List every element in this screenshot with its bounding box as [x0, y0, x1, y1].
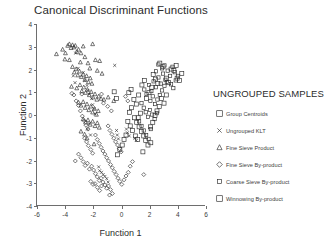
y-tick-label: -2 — [26, 157, 32, 164]
legend-item[interactable]: Group Centroids — [213, 105, 323, 122]
x-tick-mark — [37, 206, 38, 209]
legend-item-label: Group Centroids — [226, 111, 268, 117]
y-tick-mark — [34, 92, 37, 93]
scatter-series — [137, 63, 179, 141]
legend: UNGROUPED SAMPLES Group CentroidsUngroup… — [213, 88, 323, 207]
y-tick-label: 1 — [28, 89, 32, 96]
y-tick-label: -3 — [26, 180, 32, 187]
y-tick-label: 2 — [28, 66, 32, 73]
small-square-marker-icon — [213, 177, 226, 186]
legend-item[interactable]: Winnowing By-product — [213, 190, 323, 207]
square-marker-icon — [213, 194, 226, 203]
x-tick-mark — [178, 206, 179, 209]
page-title: Canonical Discriminant Functions — [34, 4, 208, 16]
x-tick-label: -2 — [90, 211, 96, 218]
diamond-marker-icon — [213, 160, 226, 169]
chart-root: Canonical Discriminant Functions -4-3-2-… — [0, 0, 326, 251]
y-axis-title: Function 2 — [18, 94, 28, 136]
y-tick-mark — [34, 70, 37, 71]
triangle-marker-icon — [213, 143, 226, 152]
x-tick-label: 6 — [204, 211, 208, 218]
x-tick-label: 2 — [148, 211, 152, 218]
y-tick-mark — [34, 47, 37, 48]
y-tick-mark — [34, 138, 37, 139]
scatter-markers-layer — [37, 24, 205, 205]
y-tick-mark — [34, 24, 37, 25]
legend-title: UNGROUPED SAMPLES — [213, 88, 323, 99]
y-tick-mark — [34, 115, 37, 116]
legend-item-label: Winnowing By-product — [226, 196, 283, 202]
legend-item-label: Ungrouped KLT — [226, 128, 266, 134]
scatter-series — [55, 42, 116, 146]
x-tick-label: 4 — [176, 211, 180, 218]
x-tick-label: -6 — [34, 211, 40, 218]
y-tick-mark — [34, 161, 37, 162]
x-tick-mark — [93, 206, 94, 209]
x-tick-mark — [65, 206, 66, 209]
legend-item[interactable]: Fine Sieve By-product — [213, 156, 323, 173]
square-marker-icon — [213, 109, 226, 118]
x-tick-mark — [150, 206, 151, 209]
y-tick-mark — [34, 183, 37, 184]
scatter-series — [112, 61, 184, 157]
y-tick-label: 4 — [28, 21, 32, 28]
x-tick-mark — [122, 206, 123, 209]
legend-item[interactable]: Ungrouped KLT — [213, 122, 323, 139]
x-marker-icon — [213, 126, 226, 135]
legend-entries: Group CentroidsUngrouped KLTFine Sieve P… — [213, 105, 323, 207]
scatter-plot-area — [37, 24, 205, 205]
legend-item[interactable]: Coarse Sieve By-product — [213, 173, 323, 190]
x-tick-label: 0 — [120, 211, 124, 218]
legend-item[interactable]: Fine Sieve Product — [213, 139, 323, 156]
legend-item-label: Fine Sieve Product — [226, 145, 274, 151]
x-axis-title: Function 1 — [36, 228, 205, 238]
legend-item-label: Coarse Sieve By-product — [226, 179, 289, 185]
x-tick-mark — [206, 206, 207, 209]
x-tick-label: -4 — [62, 211, 68, 218]
y-tick-label: -4 — [26, 203, 32, 210]
legend-item-label: Fine Sieve By-product — [226, 162, 282, 168]
y-tick-label: 0 — [28, 112, 32, 119]
plot-frame: -4-3-2-101234 -6-4-20246 — [36, 24, 205, 206]
y-tick-label: 3 — [28, 43, 32, 50]
